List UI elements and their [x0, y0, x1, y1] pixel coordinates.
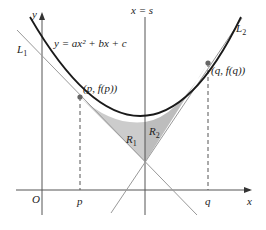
parabola-tangent-diagram: y x O p q x = s y = ax² + bx + c L1 L2 (… — [0, 0, 266, 230]
point-p — [77, 94, 82, 99]
region-r2 — [145, 63, 208, 162]
x-axis-label: x — [246, 195, 252, 207]
curve-equation-label: y = ax² + bx + c — [53, 37, 127, 49]
tangent-l2-label: L2 — [235, 22, 246, 37]
tick-q-label: q — [205, 195, 211, 207]
y-axis-arrow-icon — [39, 12, 45, 20]
point-q-label: (q, f(q)) — [211, 64, 246, 77]
x-axis-arrow-icon — [244, 187, 252, 193]
point-p-label: (p, f(p)) — [83, 82, 118, 95]
point-q — [205, 60, 210, 65]
y-axis-label: y — [31, 8, 37, 20]
tick-p-label: p — [76, 195, 83, 207]
tangent-l1-label: L1 — [16, 43, 27, 58]
vertical-line-label: x = s — [130, 4, 153, 16]
origin-label: O — [32, 193, 40, 205]
